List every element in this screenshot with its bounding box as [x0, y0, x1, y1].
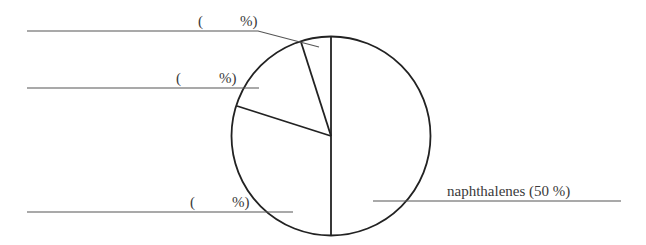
- label-top-close: %): [240, 13, 258, 30]
- label-bottom-close: %): [232, 194, 250, 211]
- label-bottom-open: (: [190, 194, 195, 211]
- label-mid-close: %): [219, 70, 237, 87]
- label-mid-open: (: [176, 70, 181, 87]
- leader-top: [27, 31, 319, 47]
- label-naphthalenes: naphthalenes (50 %): [447, 183, 570, 200]
- pie-chart: ( %) ( %) ( %) naphthalenes (50 %): [0, 0, 646, 245]
- label-top-open: (: [198, 13, 203, 30]
